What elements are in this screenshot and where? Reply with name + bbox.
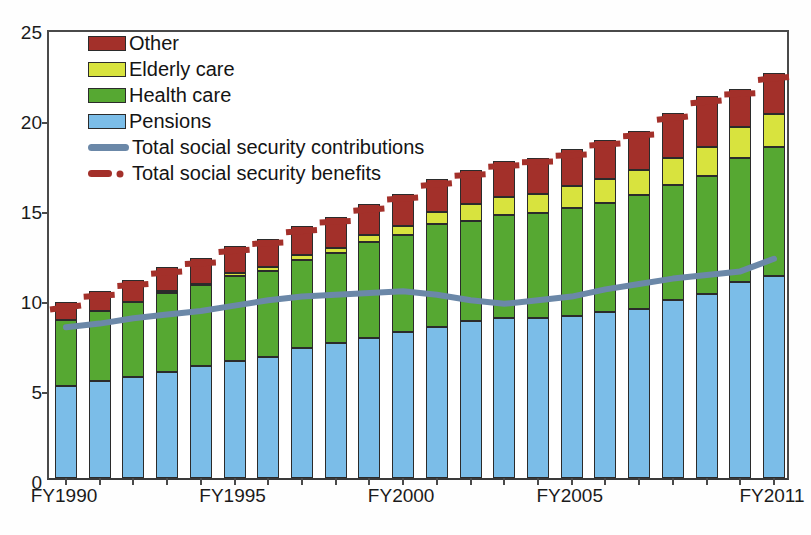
chart-page: 2520151050 FY1990FY1995FY2000FY2005FY201…	[0, 0, 811, 535]
y-tick-label: 25	[21, 23, 42, 42]
benefits-dash	[252, 243, 283, 244]
legend-label: Total social security benefits	[132, 163, 381, 183]
x-tick-mark	[773, 478, 775, 485]
x-tick-mark	[706, 478, 708, 485]
x-tick-mark	[470, 478, 472, 485]
benefits-dash	[758, 77, 789, 80]
benefits-dash	[691, 100, 722, 103]
benefits-dash	[219, 250, 250, 252]
benefits-dash	[151, 271, 182, 273]
legend-label: Elderly care	[129, 59, 235, 79]
x-tick-mark	[537, 478, 539, 485]
y-tick-mark	[42, 212, 49, 214]
benefits-dash	[320, 221, 351, 223]
benefits-dash	[84, 295, 115, 297]
legend-label: Pensions	[129, 111, 211, 131]
benefits-dash	[657, 117, 688, 120]
x-tick-mark	[604, 478, 606, 485]
legend-item-pensions[interactable]: Pensions	[88, 108, 508, 134]
y-tick-label: 10	[21, 293, 42, 312]
legend-item-elderly[interactable]: Elderly care	[88, 56, 508, 82]
legend-item-contrib[interactable]: Total social security contributions	[88, 134, 508, 160]
x-tick-mark	[99, 478, 101, 485]
legend-line-contrib	[88, 140, 129, 155]
x-axis-label-fy1990: FY1990	[31, 486, 98, 505]
x-tick-mark	[368, 478, 370, 485]
legend-swatch-health	[88, 88, 126, 103]
benefits-dash	[522, 162, 553, 163]
legend-swatch-elderly	[88, 62, 126, 77]
legend-label: Total social security contributions	[132, 137, 424, 157]
legend-line-benefit	[88, 166, 129, 181]
legend-label: Other	[129, 33, 179, 53]
x-tick-mark	[132, 478, 134, 485]
y-tick-label: 5	[31, 383, 42, 402]
y-tick-mark	[42, 122, 49, 124]
x-tick-mark	[200, 478, 202, 485]
y-tick-mark	[42, 392, 49, 394]
legend-label: Health care	[129, 85, 231, 105]
y-tick-mark	[42, 302, 49, 304]
legend-swatch-other	[88, 36, 126, 51]
x-tick-mark	[267, 478, 269, 485]
benefits-dash	[117, 284, 148, 286]
legend-item-benefit[interactable]: Total social security benefits	[88, 160, 508, 186]
benefits-dash	[286, 230, 317, 232]
x-tick-mark	[672, 478, 674, 485]
x-tick-mark	[335, 478, 337, 485]
x-axis-label-fy1995: FY1995	[199, 486, 266, 505]
benefits-dash	[724, 93, 755, 94]
x-tick-mark	[436, 478, 438, 485]
benefits-dash	[185, 262, 216, 264]
y-tick-label: 15	[21, 203, 42, 222]
benefits-dash	[623, 135, 654, 137]
x-tick-mark	[503, 478, 505, 485]
benefits-dash	[353, 208, 384, 210]
benefits-dash	[556, 154, 587, 155]
legend-item-other[interactable]: Other	[88, 30, 508, 56]
legend-swatch-pensions	[88, 114, 126, 129]
x-tick-mark	[166, 478, 168, 485]
x-tick-mark	[571, 478, 573, 485]
legend-item-health[interactable]: Health care	[88, 82, 508, 108]
x-axis-label-fy2000: FY2000	[368, 486, 435, 505]
y-tick-label: 20	[21, 113, 42, 132]
x-axis-label-fy2011: FY2011	[739, 486, 804, 505]
benefits-dash	[387, 198, 418, 200]
x-axis-label-fy2005: FY2005	[536, 486, 603, 505]
contributions-line	[66, 259, 774, 327]
x-tick-mark	[301, 478, 303, 485]
chart-legend: OtherElderly careHealth carePensionsTota…	[88, 30, 508, 186]
x-tick-mark	[638, 478, 640, 485]
x-tick-mark	[402, 478, 404, 485]
x-tick-mark	[65, 478, 67, 485]
x-tick-mark	[739, 478, 741, 485]
benefits-dash	[589, 144, 620, 146]
x-tick-mark	[234, 478, 236, 485]
benefits-dash	[50, 306, 81, 310]
